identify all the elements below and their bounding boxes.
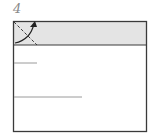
fold-diagram <box>0 0 156 137</box>
